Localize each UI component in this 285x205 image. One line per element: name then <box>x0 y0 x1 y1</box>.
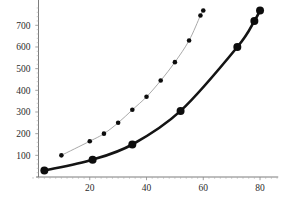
data-point-upper-curve-4 <box>130 108 135 113</box>
y-axis-tick-labels: 100200300400500600700 <box>16 21 31 161</box>
y-axis <box>35 0 38 177</box>
data-point-lower-curve-0 <box>40 167 48 175</box>
data-point-upper-curve-0 <box>59 153 64 158</box>
data-point-lower-curve-1 <box>89 156 97 164</box>
data-point-upper-curve-3 <box>116 121 121 126</box>
x-tick-label: 40 <box>142 183 152 193</box>
data-point-upper-curve-6 <box>158 78 163 83</box>
x-axis-tick-labels: 20406080 <box>85 183 265 193</box>
x-tick-label: 60 <box>199 183 209 193</box>
data-point-upper-curve-2 <box>102 131 107 136</box>
y-tick-label: 100 <box>16 151 31 161</box>
data-point-upper-curve-1 <box>87 139 92 144</box>
data-point-upper-curve-7 <box>173 60 178 65</box>
data-point-upper-curve-9 <box>198 13 203 18</box>
y-tick-label: 300 <box>16 107 31 117</box>
line-chart: 100200300400500600700 20406080 <box>0 0 285 205</box>
data-point-lower-curve-3 <box>177 107 185 115</box>
y-tick-label: 500 <box>16 64 31 74</box>
y-tick-label: 400 <box>16 86 31 96</box>
x-tick-label: 20 <box>85 183 95 193</box>
y-tick-label: 200 <box>16 129 31 139</box>
x-tick-label: 80 <box>255 183 265 193</box>
data-point-lower-curve-4 <box>233 43 241 51</box>
x-axis <box>33 177 278 180</box>
data-point-lower-curve-2 <box>128 141 136 149</box>
data-point-lower-curve-5 <box>250 17 258 25</box>
data-point-upper-curve-5 <box>144 95 149 100</box>
y-tick-label: 600 <box>16 42 31 52</box>
data-point-upper-curve-10 <box>201 8 206 13</box>
y-tick-label: 700 <box>16 21 31 31</box>
series-lines <box>44 11 260 171</box>
data-point-lower-curve-6 <box>256 7 264 15</box>
data-point-upper-curve-8 <box>187 38 192 43</box>
chart-container: 100200300400500600700 20406080 <box>0 0 285 205</box>
series-line-upper-curve <box>61 11 203 156</box>
